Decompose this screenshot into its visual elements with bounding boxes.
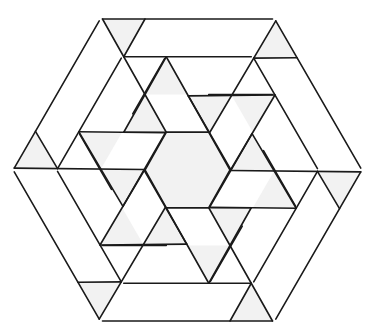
shaded-triangle [124, 95, 167, 133]
shaded-triangle [145, 57, 188, 95]
shaded-triangle [188, 246, 231, 284]
shaded-triangle [101, 169, 144, 206]
tiling-line [231, 170, 361, 171]
shaded-triangle [103, 19, 146, 57]
shaded-triangle [188, 95, 231, 132]
tiling-line [99, 207, 165, 319]
tiling-line [79, 132, 166, 133]
shaded-triangle [254, 21, 297, 58]
central-hexagon [145, 132, 230, 208]
shaded-triangle [143, 207, 186, 244]
shaded-triangle [230, 283, 273, 321]
shaded-triangle [209, 208, 252, 246]
tiling-line [14, 168, 144, 169]
diagram-canvas [0, 0, 380, 336]
tiling-line [276, 21, 361, 168]
shaded-triangle [100, 208, 143, 245]
shaded-triangle [231, 134, 274, 171]
shaded-triangle [14, 131, 57, 168]
hexagon-tiling-diagram [0, 0, 380, 336]
tiling-line [100, 244, 187, 245]
shaded-triangle [253, 171, 296, 208]
tiling-line [14, 172, 99, 319]
tiling-line [188, 95, 275, 96]
shaded-triangle [232, 95, 275, 132]
tiling-line [210, 21, 276, 133]
shaded-triangle [78, 282, 121, 319]
shaded-triangle [317, 171, 360, 208]
shaded-triangle [79, 132, 122, 169]
